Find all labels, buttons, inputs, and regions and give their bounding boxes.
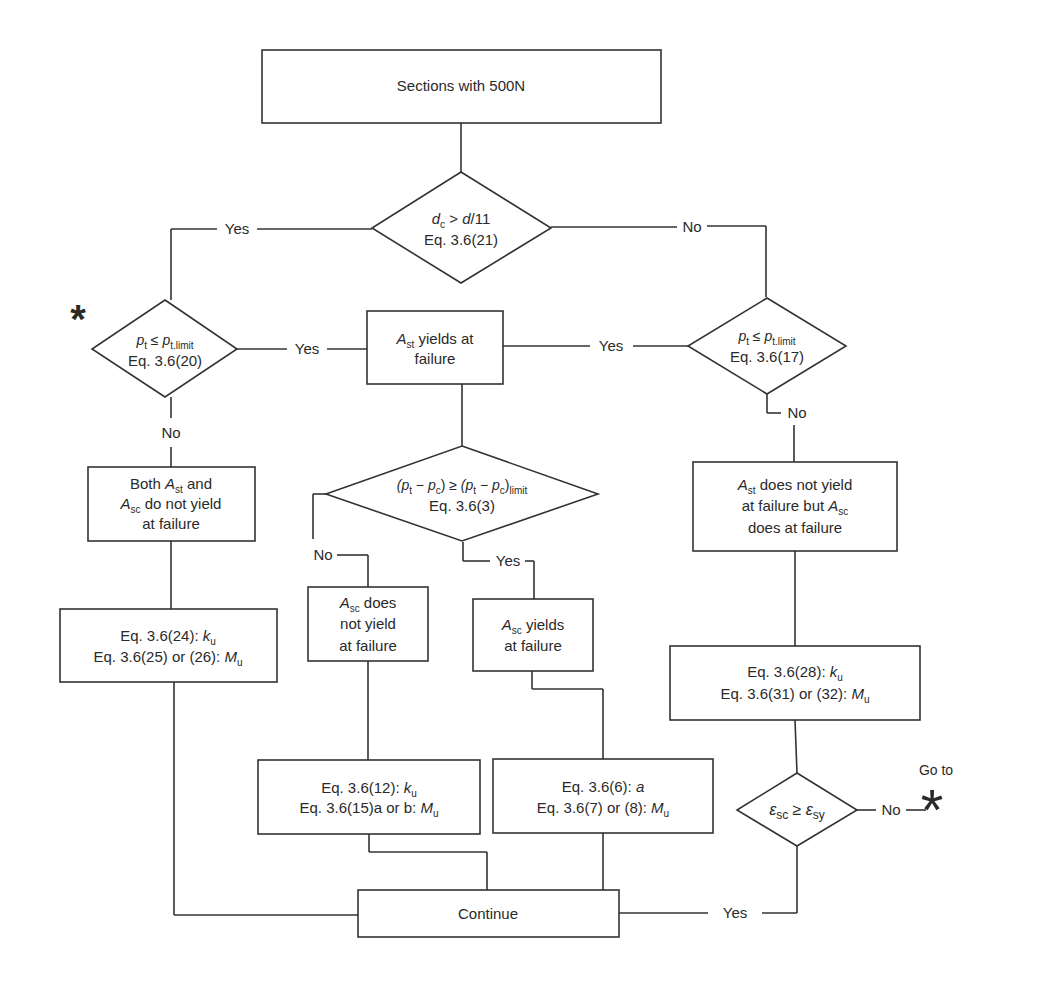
both-not-yield-box: Both Ast and Asc do not yield at failure bbox=[88, 467, 255, 541]
eq24-box: Eq. 3.6(24): ku Eq. 3.6(25) or (26): Mu bbox=[60, 609, 277, 682]
start-text: Sections with 500N bbox=[397, 77, 525, 94]
decision-pt-pc-limit: (pt − pc) ≥ (pt − pc)limit Eq. 3.6(3) bbox=[326, 446, 598, 541]
ast-not-yield-box: Ast does not yield at failure but Asc do… bbox=[693, 462, 897, 551]
label-d1-yes: Yes bbox=[225, 220, 249, 237]
asc-yields-box: Asc yields at failure bbox=[473, 599, 593, 671]
loop-target-asterisk-icon: * bbox=[70, 297, 86, 341]
label-d5-yes: Yes bbox=[723, 904, 747, 921]
label-d2-no: No bbox=[161, 424, 180, 441]
decision-pt-17-eq: Eq. 3.6(17) bbox=[730, 348, 804, 365]
asc-not-yield-box: Asc does not yield at failure bbox=[308, 587, 428, 661]
continue-box: Continue bbox=[358, 890, 619, 937]
flowchart: Sections with 500N dc > d/11 Eq. 3.6(21)… bbox=[0, 0, 1046, 988]
start-box: Sections with 500N bbox=[262, 50, 661, 123]
eq12-box: Eq. 3.6(12): ku Eq. 3.6(15)a or b: Mu bbox=[258, 760, 480, 834]
goto-label: Go to bbox=[919, 762, 953, 778]
goto-asterisk-icon: * bbox=[921, 777, 944, 842]
decision-strain: εsc ≥ εsy bbox=[737, 773, 857, 846]
label-d3-yes: Yes bbox=[599, 337, 623, 354]
decision-dc-vs-d: dc > d/11 Eq. 3.6(21) bbox=[372, 172, 551, 283]
ast-yields-box: Ast yields at failure bbox=[367, 311, 503, 384]
eq6-box: Eq. 3.6(6): a Eq. 3.6(7) or (8): Mu bbox=[493, 759, 713, 833]
ast-yields-line2: failure bbox=[415, 350, 456, 367]
asc-not-line2: not yield bbox=[340, 615, 396, 632]
decision-ptpc-eq: Eq. 3.6(3) bbox=[429, 497, 495, 514]
label-d2-yes: Yes bbox=[295, 340, 319, 357]
label-d1-no: No bbox=[682, 218, 701, 235]
decision-pt-limit-20: pt ≤ pt.limit Eq. 3.6(20) bbox=[92, 300, 237, 397]
continue-text: Continue bbox=[458, 905, 518, 922]
label-d4-yes: Yes bbox=[496, 552, 520, 569]
label-d4-no: No bbox=[313, 546, 332, 563]
both-line3: at failure bbox=[142, 515, 200, 532]
asc-yields-line2: at failure bbox=[504, 637, 562, 654]
decision-dc-eq: Eq. 3.6(21) bbox=[424, 231, 498, 248]
eq6-line1: Eq. 3.6(6): a bbox=[562, 778, 645, 795]
asc-not-line3: at failure bbox=[339, 637, 397, 654]
decision-pt-limit-17: pt ≤ pt.limit Eq. 3.6(17) bbox=[688, 298, 846, 394]
label-d3-no: No bbox=[787, 404, 806, 421]
eq28-box: Eq. 3.6(28): ku Eq. 3.6(31) or (32): Mu bbox=[670, 646, 920, 720]
ast-not-line3: does at failure bbox=[748, 519, 842, 536]
label-d5-no: No bbox=[881, 801, 900, 818]
decision-pt-20-eq: Eq. 3.6(20) bbox=[128, 352, 202, 369]
